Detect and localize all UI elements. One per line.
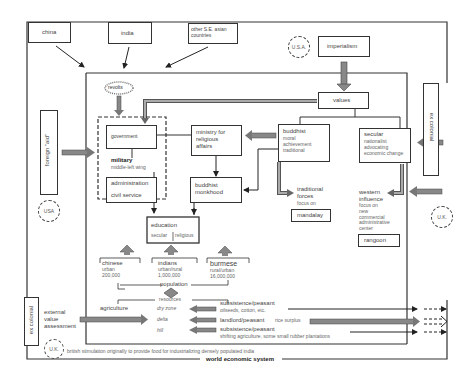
education-label: education [151, 222, 177, 229]
india-box: india [108, 22, 152, 44]
usa-circle-left: USA [38, 200, 60, 222]
rangoon-box: rangoon [358, 234, 400, 247]
buddhist-title: buddhist [283, 128, 306, 135]
administration-box: administration civil service [106, 177, 157, 203]
agriculture-label: agriculture [100, 305, 128, 312]
zone-delta-type: landlord/peasant [220, 317, 264, 324]
usa-circle-top: U.S.A. [288, 36, 310, 58]
revolts-label: revolts [108, 85, 123, 91]
foreign-aid-label: foreign "aid" [44, 120, 50, 180]
education-secular: secular [151, 233, 167, 239]
ex-colonial-right-label: ex colonial [429, 97, 435, 157]
values-box: values [318, 92, 369, 109]
other-se-asian-box: other S.E. asian countries [188, 23, 238, 44]
external-value-assessment: external value assessment [44, 309, 76, 330]
population-group-indians: indians urban/rural 1,000,000 [158, 260, 182, 278]
population-group-chinese: chinese urban 200,000 [102, 260, 123, 278]
group-count: 1,000,000 [158, 273, 182, 279]
zone-dry: dry zone [157, 306, 176, 312]
usa-label: U.S.A. [292, 44, 306, 50]
eva-line: external [44, 309, 76, 316]
ministry-line: affairs [196, 143, 225, 150]
buddhist-box: buddhist moral achievement traditional [278, 124, 330, 162]
china-box: china [28, 22, 71, 43]
ex-colonial-left-label: ex colonial [28, 292, 34, 348]
eva-line: assessment [44, 323, 76, 330]
values-label: values [333, 97, 350, 104]
group-count: 200,000 [102, 273, 123, 279]
government-box: government [106, 125, 157, 149]
zone-dry-type: subsistence/peasant [220, 300, 275, 307]
western-influence-sub: focus on new commercial administrative c… [359, 203, 390, 232]
ministry-line: ministry for [196, 129, 225, 136]
ministry-line: religious [196, 136, 225, 143]
monkhood-label: buddhist monkhood [195, 182, 223, 196]
uk-circle-right: U.K. [431, 206, 453, 228]
imperialism-label: imperialism [327, 43, 357, 50]
ministry-label: ministry for religious affairs [196, 129, 225, 150]
ministry-box: ministry for religious affairs [191, 125, 242, 156]
mandalay-label: mandalay [297, 212, 323, 219]
population-label: population [160, 281, 188, 288]
administration-label: administration [111, 180, 148, 187]
secular-line: economic change [364, 151, 403, 157]
footnote: british stimulation originally to provid… [67, 349, 254, 355]
zone-hill-detail: shifting agriculture, some small rubber … [220, 334, 330, 340]
usa-label: USA [44, 208, 54, 214]
imperialism-box: imperialism [318, 36, 370, 57]
group-count: 16,000,000 [210, 274, 237, 280]
mandalay-box: mandalay [291, 209, 331, 222]
military-sublabel: middle-left wing [111, 165, 146, 171]
monkhood-box: buddhist monkhood [190, 177, 242, 203]
zone-hill: hill [157, 328, 163, 334]
secular-title: secular [364, 131, 383, 138]
civil-service-label: civil service [111, 192, 142, 199]
monkhood-line: buddhist [195, 182, 223, 189]
uk-label: U.K. [437, 214, 447, 220]
other-se-asian-label: other S.E. asian countries [191, 27, 236, 39]
ex-colonial-left-box: ex colonial [24, 297, 39, 346]
secular-box: secular nationalist advocating economic … [359, 128, 411, 163]
uk-label: U.K. [49, 346, 59, 352]
china-label: china [42, 29, 56, 36]
ex-colonial-right-box: ex colonial [423, 83, 439, 176]
world-economic-system-label: world economic system [203, 356, 277, 363]
traditional-forces-label: traditional forces [297, 186, 323, 200]
tf-line: forces [297, 193, 323, 200]
secular-lines: nationalist advocating economic change [364, 139, 403, 156]
buddhist-lines: moral achievement traditional [283, 136, 311, 153]
foreign-aid-box: foreign "aid" [40, 110, 58, 195]
zone-dry-detail: oilseeds, cotton, etc. [220, 308, 266, 314]
buddhist-line: traditional [283, 148, 311, 154]
tf-line: traditional [297, 186, 323, 193]
zone-hill-type: subsistence/peasant [220, 326, 275, 333]
population-group-burmese: burmese rural/urban 16,000,000 [210, 260, 237, 280]
india-label: india [121, 30, 134, 37]
eva-line: value [44, 316, 76, 323]
western-influence-label: western influence [359, 189, 383, 203]
rangoon-label: rangoon [364, 237, 386, 244]
military-label: military [111, 157, 132, 164]
zone-delta-detail: rice surplus [275, 318, 301, 324]
education-religious: religious [175, 233, 194, 239]
traditional-forces-sub: focus on [297, 201, 316, 207]
wi-sub-line: center [359, 226, 390, 232]
monkhood-line: monkhood [195, 189, 223, 196]
wi-line: western [359, 189, 383, 196]
zone-delta: delta [157, 317, 168, 323]
uk-circle-bottom: U.K. [44, 339, 64, 359]
resources-label: resources [159, 297, 181, 303]
government-label: government [111, 134, 137, 140]
